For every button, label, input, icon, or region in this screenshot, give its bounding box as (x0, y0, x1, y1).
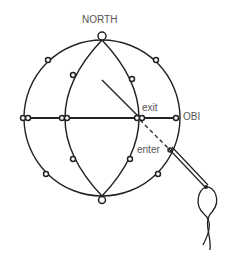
exit-label: exit (142, 103, 158, 113)
diagram-canvas (0, 0, 227, 266)
needle-icon (169, 147, 208, 189)
north-bead (98, 32, 106, 40)
bead-obi (174, 116, 179, 121)
north-label: NORTH (82, 15, 117, 25)
bead-nw-outer (46, 58, 51, 63)
bead-west-2 (26, 116, 31, 121)
south-bead (99, 197, 106, 204)
bead-sw-inner (71, 157, 76, 162)
bead-sw-outer (44, 172, 49, 177)
obi-label: OBI (183, 112, 200, 122)
bead-ne-inner (130, 77, 135, 82)
bead-se-outer (156, 172, 161, 177)
bead-midleft-2 (65, 116, 70, 121)
thread (198, 187, 209, 245)
thread-loop (206, 187, 217, 250)
bead-se-inner (128, 157, 133, 162)
orbital-diagram: NORTH exit OBI enter (0, 0, 227, 266)
bead-ne-outer (154, 58, 159, 63)
bead-exit-2 (140, 116, 145, 121)
bead-nw-inner (71, 73, 76, 78)
enter-label: enter (137, 145, 160, 155)
